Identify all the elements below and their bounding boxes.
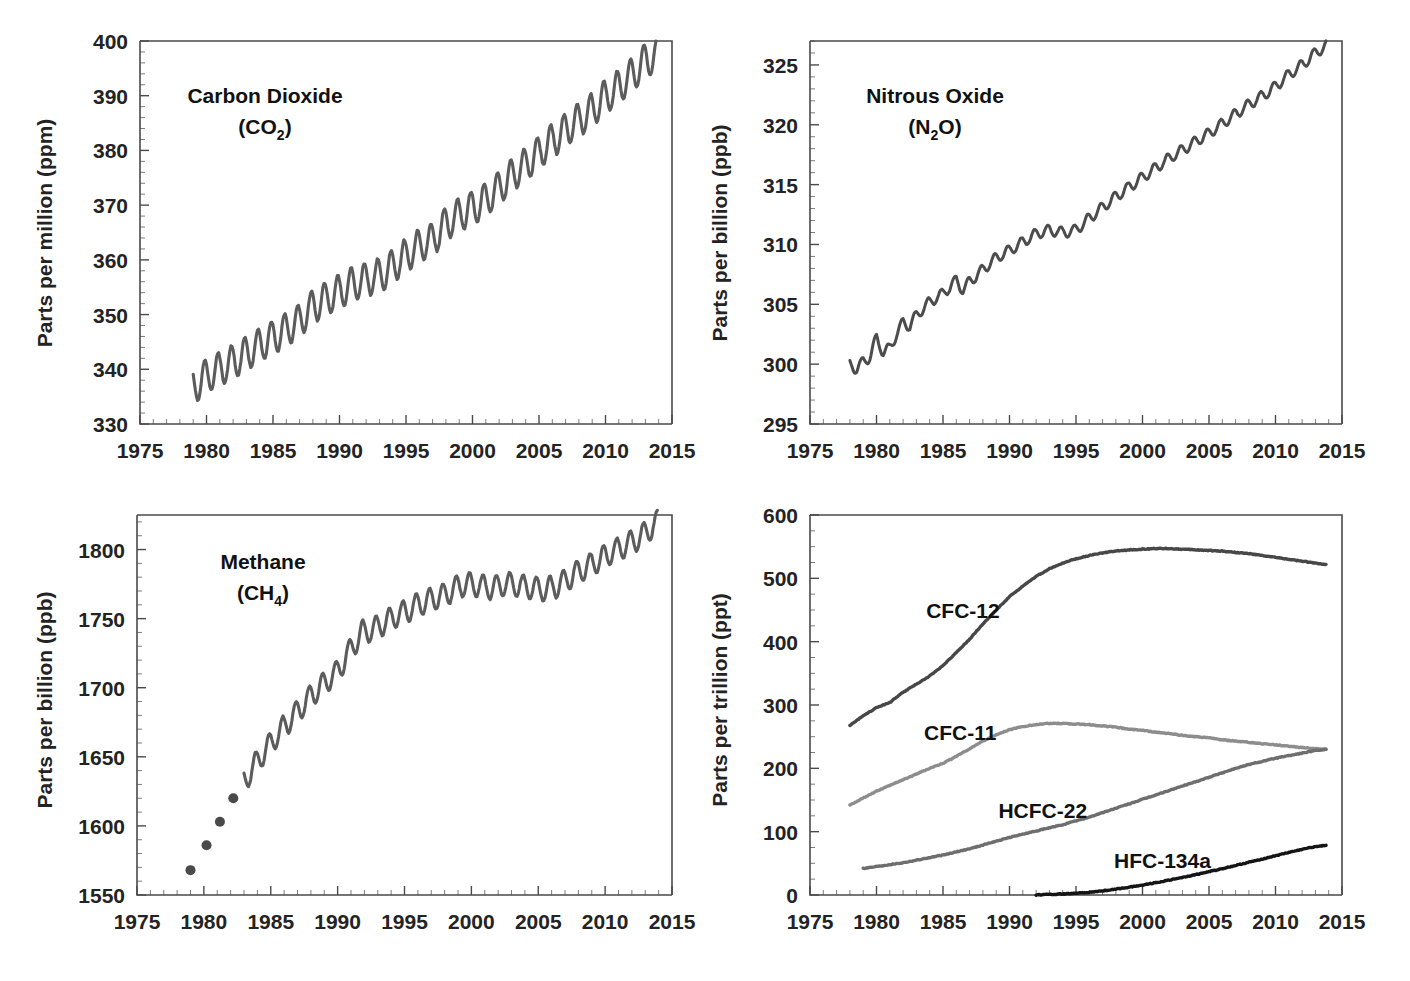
x-tick-label: 1995 [383, 439, 430, 462]
x-tick-label: 1980 [853, 439, 900, 462]
formula-tail: ) [282, 581, 289, 604]
plot-frame-halocarbons [810, 515, 1342, 895]
x-tick-label: 1995 [1053, 439, 1100, 462]
panel-halocarbons: Parts per trillion (ppt) 010020030040050… [705, 470, 1410, 981]
x-tick-label: 2000 [1119, 439, 1166, 462]
gas-name: Carbon Dioxide [187, 84, 342, 107]
y-tick-label: 1750 [78, 608, 125, 631]
x-tick-label: 1990 [986, 910, 1033, 933]
chart-halocarbons: Parts per trillion (ppt) 010020030040050… [705, 470, 1410, 981]
y-axis-label: Parts per billion (ppb) [708, 124, 731, 341]
x-tick-label: 1980 [181, 910, 228, 933]
axis-title-y-halocarbons: Parts per trillion (ppt) [708, 593, 731, 807]
gas-formula: (CH4) [237, 581, 289, 609]
series-label-hfc-134a: HFC-134a [1114, 849, 1211, 872]
y-tick-label: 1600 [78, 815, 125, 838]
axis-ticks-ch4: 1550160016501700175018001975198019851990… [78, 522, 695, 933]
y-tick-label: 350 [93, 304, 128, 327]
x-tick-label: 1985 [250, 439, 297, 462]
y-tick-label: 1800 [78, 539, 125, 562]
y-tick-label: 325 [763, 54, 798, 77]
series-marker [215, 817, 225, 827]
plot-axes [810, 515, 1342, 895]
x-tick-label: 1975 [114, 910, 161, 933]
y-tick-label: 390 [93, 85, 128, 108]
panel-nitrous-oxide: Parts per billion (ppb) 2953003053103153… [705, 0, 1410, 480]
y-tick-label: 340 [93, 358, 128, 381]
y-tick-label: 360 [93, 249, 128, 272]
y-tick-label: 400 [763, 631, 798, 654]
formula-subscript: 4 [274, 593, 282, 609]
y-tick-label: 400 [93, 30, 128, 53]
x-tick-label: 2015 [649, 439, 696, 462]
y-tick-label: 310 [763, 233, 798, 256]
x-tick-label: 1995 [381, 910, 428, 933]
y-tick-label: 330 [93, 413, 128, 436]
y-tick-label: 1550 [78, 884, 125, 907]
y-tick-label: 380 [93, 139, 128, 162]
y-tick-label: 320 [763, 114, 798, 137]
gas-name: Methane [220, 550, 305, 573]
x-tick-label: 2000 [448, 910, 495, 933]
x-tick-label: 2000 [1119, 910, 1166, 933]
y-tick-label: 1700 [78, 677, 125, 700]
chart-carbon-dioxide: Parts per million (ppm) 3303403503603703… [0, 0, 705, 480]
plot-border-top-right [810, 515, 1342, 895]
panel-methane: Parts per billion (ppb) 1550160016501700… [0, 470, 705, 981]
gas-formula: (N2O) [908, 115, 961, 143]
series-line-cfc-12 [850, 548, 1326, 725]
x-tick-label: 1985 [920, 439, 967, 462]
chart-methane: Parts per billion (ppb) 1550160016501700… [0, 470, 705, 981]
gas-formula: (CO2) [238, 115, 291, 143]
series-label-cfc-11: CFC-11 [924, 721, 997, 744]
plot-axes [137, 515, 672, 895]
gas-name: Nitrous Oxide [866, 84, 1004, 107]
x-tick-label: 1980 [183, 439, 230, 462]
series-marker [228, 793, 238, 803]
x-tick-label: 2010 [582, 439, 629, 462]
series-group-halocarbons [850, 548, 1326, 895]
series-marker [202, 840, 212, 850]
y-tick-label: 370 [93, 194, 128, 217]
axis-title-y-co2: Parts per million (ppm) [33, 119, 56, 348]
x-tick-label: 1985 [920, 910, 967, 933]
x-tick-label: 1985 [247, 910, 294, 933]
x-tick-label: 2005 [1186, 910, 1233, 933]
formula-main: (CH [237, 581, 274, 604]
formula-subscript: 2 [277, 127, 285, 143]
formula-tail: O) [938, 115, 961, 138]
y-tick-label: 305 [763, 293, 798, 316]
x-tick-label: 2005 [515, 910, 562, 933]
series-marker [186, 865, 196, 875]
y-tick-label: 500 [763, 567, 798, 590]
x-tick-label: 2015 [1319, 439, 1366, 462]
plot-frame-ch4 [137, 515, 672, 895]
formula-main: (N [908, 115, 930, 138]
x-tick-label: 2010 [1252, 910, 1299, 933]
chart-nitrous-oxide: Parts per billion (ppb) 2953003053103153… [705, 0, 1410, 480]
x-tick-label: 2015 [649, 910, 696, 933]
y-tick-label: 600 [763, 504, 798, 527]
x-tick-label: 1975 [787, 439, 834, 462]
axis-ticks-halocarbons: 0100200300400500600197519801985199019952… [763, 504, 1366, 933]
y-tick-label: 0 [786, 884, 798, 907]
axis-title-y-n2o: Parts per billion (ppb) [708, 124, 731, 341]
x-tick-label: 2010 [582, 910, 629, 933]
formula-tail: ) [285, 115, 292, 138]
y-axis-label: Parts per million (ppm) [33, 119, 56, 348]
gas-title-ch4: Methane (CH4) [220, 550, 305, 609]
y-tick-label: 200 [763, 757, 798, 780]
x-tick-label: 1975 [787, 910, 834, 933]
x-tick-label: 1990 [314, 910, 361, 933]
x-tick-label: 1990 [986, 439, 1033, 462]
series-line-ch4-monthly-mean [244, 510, 657, 786]
y-tick-label: 300 [763, 694, 798, 717]
x-tick-label: 1990 [316, 439, 363, 462]
x-tick-label: 2010 [1252, 439, 1299, 462]
series-label-hcfc-22: HCFC-22 [998, 799, 1087, 822]
y-tick-label: 1650 [78, 746, 125, 769]
y-tick-label: 100 [763, 821, 798, 844]
y-tick-label: 315 [763, 174, 798, 197]
gas-title-co2: Carbon Dioxide (CO2) [187, 84, 342, 143]
plot-border-top-right [137, 515, 672, 895]
